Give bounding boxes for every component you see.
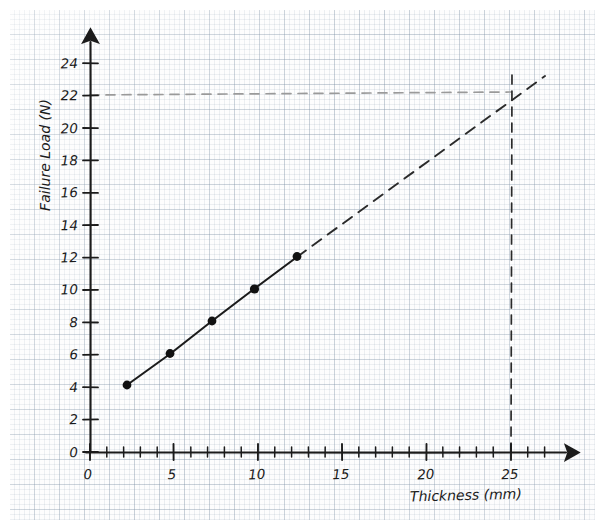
y-tick-label: 12 [60, 249, 78, 266]
x-tick-label: 20 [417, 466, 435, 483]
y-tick-label: 22 [61, 87, 78, 103]
x-tick-label: 15 [332, 466, 350, 483]
construction-lines [90, 72, 512, 452]
vertical-readoff-line [511, 72, 512, 452]
series-measured [123, 252, 302, 389]
y-tick-label: 0 [69, 444, 78, 460]
axes-group [86, 42, 566, 453]
y-tick-label: 16 [60, 184, 78, 201]
data-point [123, 381, 132, 390]
data-point [166, 349, 175, 358]
y-tick-label: 20 [60, 120, 78, 137]
data-point [250, 284, 259, 293]
y-tick-label: 14 [61, 217, 78, 233]
y-tick-label: 4 [69, 379, 78, 395]
y-tick-label: 10 [60, 281, 78, 297]
y-tick-label: 24 [60, 55, 78, 72]
horizontal-readoff-line [90, 92, 511, 95]
x-axis-tick-labels: 0 5 10 15 20 25 [83, 466, 519, 483]
x-tick-label: 5 [167, 466, 176, 482]
y-tick-label: 8 [69, 314, 78, 330]
y-axis-label: Failure Load (N) [37, 99, 53, 211]
x-tick-label: 10 [248, 466, 266, 483]
data-point [208, 317, 217, 326]
y-tick-label: 18 [60, 152, 78, 168]
chart-page: 0 2 4 6 8 10 12 14 16 18 20 22 24 [0, 0, 607, 531]
extrapolation-line [297, 76, 545, 257]
series-extrapolation [297, 76, 545, 257]
x-tick-label: 0 [83, 466, 92, 482]
y-tick-label: 2 [69, 411, 78, 427]
x-axis-label: Thickness (mm) [410, 486, 522, 505]
data-point [293, 252, 302, 261]
y-tick-label: 6 [69, 346, 78, 362]
x-tick-label: 25 [501, 466, 519, 483]
y-axis-tick-labels: 0 2 4 6 8 10 12 14 16 18 20 22 24 [60, 55, 78, 460]
chart-canvas: 0 2 4 6 8 10 12 14 16 18 20 22 24 [0, 0, 607, 531]
